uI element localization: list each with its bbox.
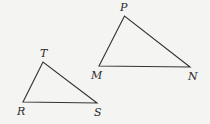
- vertex-label-t: T: [40, 48, 47, 59]
- vertex-label-r: R: [17, 106, 25, 117]
- diagram-canvas: P M N T R S: [0, 0, 210, 124]
- triangles-svg: [0, 0, 210, 124]
- vertex-label-m: M: [91, 70, 102, 81]
- vertex-label-s: S: [94, 107, 102, 118]
- triangle-mnp: [99, 16, 190, 67]
- vertex-label-n: N: [188, 71, 198, 82]
- vertex-label-p: P: [120, 2, 127, 13]
- triangle-rst: [23, 62, 97, 103]
